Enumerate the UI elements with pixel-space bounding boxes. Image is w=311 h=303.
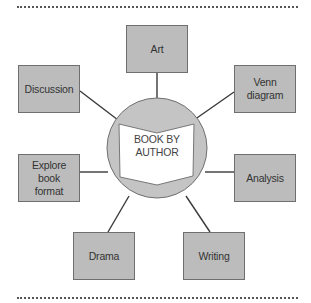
node-analysis: Analysis (234, 154, 296, 202)
connector-writing (186, 196, 210, 232)
node-art-label: Art (151, 43, 164, 56)
node-writing-label: Writing (198, 250, 229, 263)
node-art: Art (126, 25, 188, 73)
node-discussion: Discussion (18, 65, 80, 113)
node-explore-label: Explore book format (29, 159, 69, 198)
node-explore-book-format: Explore book format (18, 154, 80, 202)
connector-venn (194, 92, 234, 120)
node-analysis-label: Analysis (246, 172, 284, 185)
node-venn-diagram: Venn diagram (234, 65, 296, 113)
connector-discussion (80, 91, 118, 120)
center-label: BOOK BY AUTHOR (119, 133, 195, 159)
node-discussion-label: Discussion (25, 83, 74, 96)
connector-drama (108, 196, 129, 232)
node-drama: Drama (73, 232, 135, 280)
node-venn-label: Venn diagram (245, 76, 285, 102)
node-drama-label: Drama (89, 250, 120, 263)
node-writing: Writing (183, 232, 245, 280)
